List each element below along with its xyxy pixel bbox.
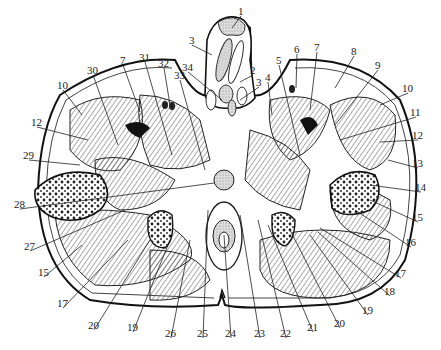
label-32: 32 (158, 58, 169, 69)
label-12a: 12 (31, 117, 42, 128)
label-22: 22 (280, 328, 291, 339)
label-18: 18 (384, 286, 395, 297)
label-28: 28 (14, 199, 25, 210)
label-27: 27 (24, 241, 35, 252)
label-29: 29 (23, 150, 34, 161)
label-2: 2 (250, 65, 256, 76)
label-24: 24 (225, 328, 236, 339)
label-3a: 3 (189, 35, 195, 46)
label-7b: 7 (314, 42, 320, 53)
label-25: 25 (197, 328, 208, 339)
ischium-left (148, 211, 173, 248)
label-17b: 17 (395, 268, 406, 279)
label-7a: 7 (120, 55, 126, 66)
label-19b: 19 (362, 305, 373, 316)
label-26: 26 (165, 328, 176, 339)
label-20b: 20 (334, 318, 345, 329)
label-31: 31 (139, 52, 150, 63)
label-5: 5 (276, 55, 282, 66)
label-20a: 20 (88, 320, 99, 331)
label-9: 9 (375, 60, 381, 71)
label-6: 6 (294, 44, 300, 55)
label-23: 23 (254, 328, 265, 339)
label-16: 16 (405, 237, 416, 248)
label-3b: 3 (256, 77, 262, 88)
label-14: 14 (415, 182, 426, 193)
label-10a: 10 (57, 80, 68, 91)
label-21: 21 (307, 322, 318, 333)
label-11: 11 (410, 107, 421, 118)
label-15b: 15 (412, 212, 423, 223)
label-34: 34 (182, 62, 193, 73)
label-19a: 19 (127, 322, 138, 333)
label-10b: 10 (402, 83, 413, 94)
label-13: 13 (412, 158, 423, 169)
femur-right (330, 172, 379, 215)
label-1: 1 (238, 6, 244, 17)
label-30: 30 (87, 65, 98, 76)
label-8: 8 (351, 46, 357, 57)
label-12b: 12 (412, 130, 423, 141)
label-17a: 17 (57, 298, 68, 309)
anatomical-diagram: 1233456778910101112121314151516171718191… (0, 0, 441, 350)
label-4: 4 (265, 72, 271, 83)
label-15a: 15 (38, 267, 49, 278)
